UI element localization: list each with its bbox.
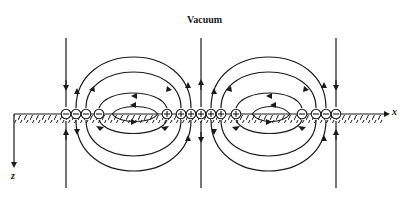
positive-charge-icon xyxy=(162,109,172,119)
positive-charge-icon xyxy=(231,109,241,119)
right-lower-arc-middle xyxy=(221,120,316,156)
right-upper-arc-innermost xyxy=(252,107,290,115)
negative-charge-icon xyxy=(331,109,341,119)
left-lower-arc-middle xyxy=(86,120,181,156)
left-lower-arc-outer xyxy=(76,120,191,171)
negative-charge-icon xyxy=(71,109,81,119)
right-upper-arc-outer xyxy=(211,57,326,108)
charges xyxy=(61,109,341,119)
negative-charge-icon xyxy=(321,109,331,119)
negative-charge-icon xyxy=(297,109,307,119)
positive-charge-icon xyxy=(176,109,186,119)
negative-charge-icon xyxy=(311,109,321,119)
negative-charge-icon xyxy=(61,109,71,119)
positive-charge-icon xyxy=(186,109,196,119)
left-upper-arc-outer xyxy=(76,57,191,108)
negative-charge-icon xyxy=(94,109,104,119)
positive-charge-icon xyxy=(216,109,226,119)
right-upper-arc-middle xyxy=(221,72,316,108)
field-line-diagram xyxy=(0,0,409,202)
positive-charge-icon xyxy=(206,109,216,119)
right-lower-arc-outer xyxy=(211,120,326,171)
positive-charge-icon xyxy=(196,109,206,119)
negative-charge-icon xyxy=(81,109,91,119)
z-axis-label: z xyxy=(11,170,15,181)
x-axis-label: x xyxy=(392,106,397,117)
left-upper-arc-innermost xyxy=(112,107,158,115)
